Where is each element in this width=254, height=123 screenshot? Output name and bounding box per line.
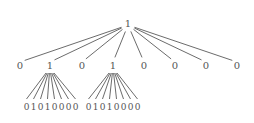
leaf-node-0-6: 0 — [66, 102, 72, 112]
edge-subtree-0-leaf-5 — [52, 73, 62, 99]
edge-subtree-0-leaf-6 — [53, 73, 69, 99]
child-node-4: 0 — [141, 60, 147, 71]
child-node-3: 1 — [110, 60, 116, 71]
child-node-5: 0 — [172, 60, 178, 71]
leaf-node-1-3: 1 — [107, 102, 113, 112]
edge-subtree-1-leaf-0 — [89, 73, 110, 99]
edge-subtree-0-leaf-4 — [51, 73, 55, 99]
leaf-node-1-2: 0 — [100, 102, 106, 112]
leaf-node-0-3: 1 — [45, 102, 51, 112]
child-node-1: 1 — [47, 60, 53, 71]
leaf-node-1-1: 1 — [93, 102, 99, 112]
child-node-2: 0 — [79, 60, 85, 71]
child-node-0: 0 — [17, 60, 23, 71]
leaf-node-1-5: 0 — [121, 102, 127, 112]
leaf-node-0-0: 0 — [24, 102, 30, 112]
leaf-node-1-7: 0 — [135, 102, 141, 112]
child-node-6: 0 — [203, 60, 209, 71]
edge-root-to-child-4 — [131, 31, 142, 57]
edge-subtree-1-leaf-1 — [96, 73, 111, 99]
edge-root-to-child-6 — [134, 28, 201, 60]
leaf-node-1-4: 0 — [114, 102, 120, 112]
edge-subtree-1-leaf-6 — [116, 73, 131, 99]
root-edges — [25, 27, 233, 60]
edge-root-to-child-7 — [135, 27, 233, 60]
leaf-rows: 0101000001010000 — [24, 102, 141, 112]
edge-subtree-0-leaf-0 — [27, 73, 47, 99]
edge-subtree-0-leaf-1 — [34, 73, 48, 99]
edge-subtree-1-leaf-7 — [117, 73, 138, 99]
leaf-node-0-2: 0 — [38, 102, 44, 112]
edge-subtree-0-leaf-7 — [54, 73, 76, 99]
edge-root-to-child-1 — [55, 28, 122, 60]
edge-subtree-0-leaf-3 — [48, 73, 50, 99]
child-node-7: 0 — [234, 60, 240, 71]
root-node: 1 — [125, 18, 131, 29]
edge-root-to-child-3 — [115, 32, 126, 58]
edge-subtree-0-leaf-2 — [41, 73, 49, 99]
leaf-node-0-1: 1 — [31, 102, 37, 112]
leaf-node-1-0: 0 — [86, 102, 92, 112]
child-nodes: 01010000 — [17, 60, 240, 71]
subtree-edges — [27, 73, 138, 99]
leaf-node-0-4: 0 — [52, 102, 58, 112]
leaf-node-0-5: 0 — [59, 102, 65, 112]
edge-root-to-child-2 — [86, 29, 123, 59]
edge-root-to-child-0 — [25, 27, 122, 60]
tree-diagram: 1 01010000 0101000001010000 — [0, 0, 254, 123]
leaf-node-0-7: 0 — [73, 102, 79, 112]
leaf-node-1-6: 0 — [128, 102, 134, 112]
